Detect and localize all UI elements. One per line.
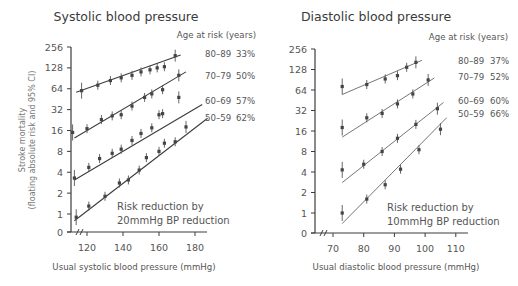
data-point: [365, 116, 368, 119]
systolic-label-80-89: 80–89: [205, 49, 231, 59]
svg-text:(floating absolute risk and 95: (floating absolute risk and 95% CI): [28, 71, 37, 210]
data-point: [100, 118, 103, 121]
x-tick-label: 70: [327, 243, 339, 254]
x-tick-label: 110: [447, 243, 465, 254]
systolic-pct-70-79: 50%: [236, 71, 255, 81]
systolic-series-70-79: [71, 69, 186, 140]
systolic-legend-title: Age at risk (years): [177, 30, 256, 40]
data-point: [184, 125, 187, 128]
data-point: [362, 163, 365, 166]
data-point: [341, 85, 344, 88]
data-point: [98, 157, 101, 160]
data-point: [161, 112, 164, 115]
data-point: [411, 92, 414, 95]
data-point: [85, 127, 88, 130]
diastolic-x-axis-label: Usual diastolic blood pressure (mmHg): [313, 262, 480, 272]
data-point: [130, 104, 133, 107]
data-point: [80, 89, 83, 92]
data-point: [111, 114, 114, 117]
systolic-chart: Systolic blood pressure Age at risk (yea…: [18, 9, 256, 272]
data-point: [427, 78, 430, 81]
diastolic-note-line2: 10mmHg BP reduction: [387, 216, 500, 227]
data-point: [174, 54, 177, 57]
data-point: [127, 178, 130, 181]
data-point: [163, 65, 166, 68]
data-point: [138, 168, 141, 171]
y-tick-label: 256: [45, 42, 63, 53]
data-point: [148, 68, 151, 71]
systolic-series-labels: 80–89 33% 70–79 50% 60–69 57% 50–59 62%: [205, 49, 255, 123]
data-point: [75, 216, 78, 219]
fit-line: [342, 78, 434, 137]
data-point: [381, 150, 384, 153]
systolic-pct-80-89: 33%: [236, 49, 255, 59]
data-point: [145, 156, 148, 159]
y-tick-label: 2: [57, 188, 63, 199]
systolic-chart-title: Systolic blood pressure: [54, 9, 199, 24]
systolic-label-50-59: 50–59: [205, 113, 231, 123]
data-point: [156, 66, 159, 69]
systolic-pct-50-59: 62%: [236, 113, 255, 123]
data-point: [139, 132, 142, 135]
diastolic-note-line1: Risk reduction by: [387, 202, 474, 213]
data-point: [396, 74, 399, 77]
systolic-label-70-79: 70–79: [205, 71, 231, 81]
data-point: [341, 211, 344, 214]
y-tick-label: 0: [57, 227, 63, 238]
data-point: [417, 148, 420, 151]
data-point: [87, 204, 90, 207]
data-point: [405, 66, 408, 69]
data-point: [414, 123, 417, 126]
data-point: [365, 197, 368, 200]
y-tick-label: 0: [301, 228, 307, 239]
data-point: [118, 181, 121, 184]
fit-line: [74, 72, 186, 138]
diastolic-pct-60-69: 60%: [490, 96, 509, 106]
diastolic-chart-title: Diastolic blood pressure: [301, 9, 452, 24]
diastolic-chart: Diastolic blood pressure Age at risk (ye…: [289, 9, 509, 272]
y-tick-label: 4: [301, 167, 307, 178]
systolic-pct-60-69: 57%: [236, 96, 255, 106]
data-point: [73, 176, 76, 179]
y-tick-label: 4: [57, 167, 63, 178]
data-point: [341, 168, 344, 171]
stroke-mortality-figure: Systolic blood pressure Age at risk (yea…: [0, 0, 518, 286]
diastolic-label-80-89: 80–89: [458, 56, 484, 66]
data-point: [399, 168, 402, 171]
diastolic-series-80-89: [341, 56, 422, 94]
data-point: [174, 140, 177, 143]
diastolic-series-70-79: [341, 74, 435, 137]
data-point: [384, 77, 387, 80]
systolic-y-axis-label: Stroke mortality (floating absolute risk…: [18, 71, 37, 210]
data-point: [120, 76, 123, 79]
x-tick-label: 180: [186, 242, 204, 253]
fit-line: [76, 55, 180, 92]
data-point: [139, 70, 142, 73]
systolic-series-80-89: [76, 50, 180, 99]
data-point: [163, 142, 166, 145]
diastolic-pct-50-59: 66%: [490, 109, 509, 119]
x-tick-label: 100: [416, 243, 434, 254]
data-point: [130, 139, 133, 142]
x-tick-label: 140: [114, 242, 132, 253]
diastolic-label-50-59: 50–59: [458, 109, 484, 119]
data-point: [111, 152, 114, 155]
data-point: [96, 84, 99, 87]
diastolic-series-labels: 80–89 37% 70–79 52% 60–69 60% 50–59 66%: [458, 56, 509, 119]
diastolic-series-60-69: [341, 102, 444, 182]
data-point: [150, 92, 153, 95]
data-point: [143, 96, 146, 99]
data-point: [120, 113, 123, 116]
data-point: [439, 128, 442, 131]
data-point: [87, 166, 90, 169]
data-point: [150, 126, 153, 129]
data-point: [177, 96, 180, 99]
data-point: [384, 183, 387, 186]
diastolic-pct-80-89: 37%: [490, 56, 509, 66]
data-point: [365, 83, 368, 86]
data-point: [103, 195, 106, 198]
y-tick-label: 32: [295, 105, 307, 116]
data-point: [396, 137, 399, 140]
y-tick-label: 8: [57, 146, 63, 157]
y-tick-label: 32: [51, 104, 63, 115]
